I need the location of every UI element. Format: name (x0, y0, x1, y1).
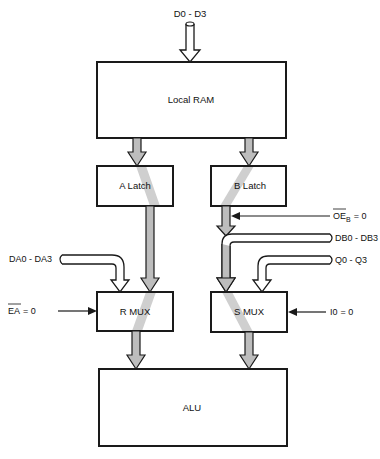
i0-control-line (288, 308, 326, 316)
b-latch-output-arrow (217, 206, 235, 236)
q-bus (253, 256, 332, 292)
q-bus-label: Q0 - Q3 (335, 255, 367, 265)
b-latch-label: B Latch (234, 180, 266, 191)
r-mux-label: R MUX (120, 306, 151, 317)
svg-text:OEB= 0: OEB= 0 (333, 211, 366, 223)
da-bus (60, 255, 129, 292)
oeb-control-label: OEB= 0 (333, 209, 366, 223)
ram-to-b-latch-arrow (240, 138, 258, 166)
a-latch-label: A Latch (119, 180, 151, 191)
alu-label: ALU (183, 402, 202, 413)
ram-to-a-latch-arrow (128, 138, 146, 166)
local-ram-label: Local RAM (168, 94, 215, 105)
s-mux-to-alu-arrow (240, 332, 258, 369)
oeb-control-line (231, 212, 330, 220)
top-bus-arrow (180, 22, 200, 62)
top-bus-label: D0 - D3 (174, 8, 207, 19)
a-latch-to-r-mux-arrow (141, 206, 159, 292)
svg-text:EA= 0: EA= 0 (8, 306, 36, 316)
s-mux-label: S MUX (234, 306, 265, 317)
da-bus-label: DA0 - DA3 (9, 254, 52, 264)
datapath-diagram: D0 - D3 Local RAM A Latch B Latch OEB= 0… (0, 0, 380, 459)
i0-control-label: I0= 0 (330, 307, 353, 317)
ea-control-label: EA= 0 (8, 304, 36, 316)
ea-control-line (58, 307, 97, 315)
r-mux-to-alu-arrow (127, 331, 145, 369)
db-bus-label: DB0 - DB3 (335, 233, 378, 243)
